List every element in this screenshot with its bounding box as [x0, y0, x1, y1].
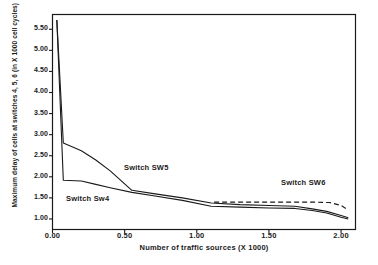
series-label: Switch Sw4	[66, 194, 109, 203]
x-axis-title: Number of traffic sources (X 1000)	[52, 243, 356, 252]
chart-figure: Maximum delay of cells at switches 4, 5,…	[0, 0, 378, 265]
series-label: Switch SW6	[281, 178, 326, 187]
plot-area	[0, 0, 378, 265]
series-label: Switch SW5	[124, 163, 169, 172]
